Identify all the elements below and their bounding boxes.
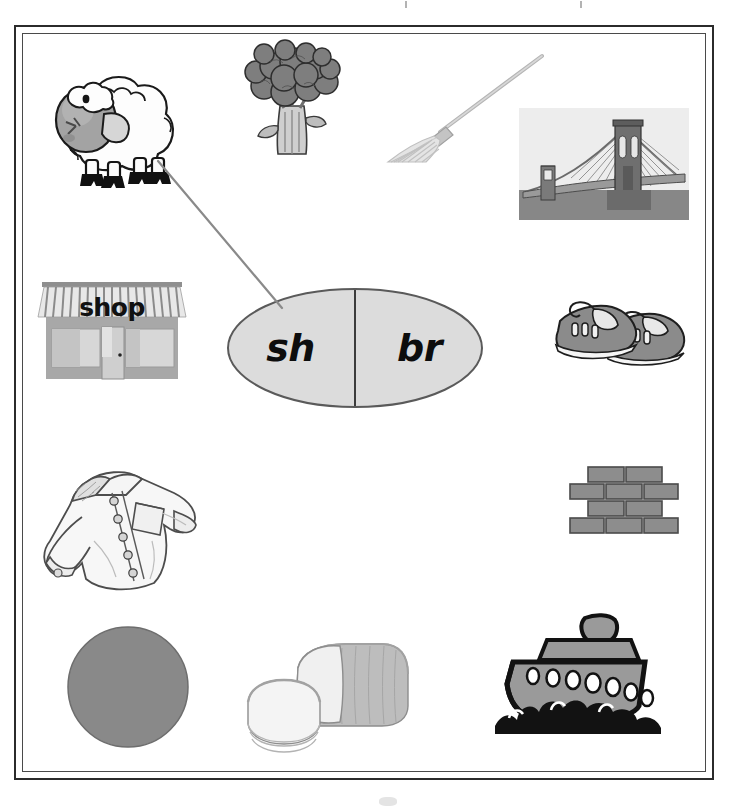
- oval-label-sh: sh: [226, 287, 355, 409]
- picture-bricks[interactable]: [570, 465, 678, 537]
- picture-shop[interactable]: shop: [38, 267, 186, 379]
- picture-shirt[interactable]: [34, 455, 206, 607]
- scan-artifact-bottom: [379, 797, 397, 806]
- picture-broccoli[interactable]: [240, 42, 344, 160]
- picture-bridge[interactable]: [519, 108, 689, 220]
- picture-bread[interactable]: [240, 634, 412, 756]
- worksheet-page: shop: [0, 0, 730, 811]
- shop-sign-text: shop: [38, 293, 186, 322]
- sorting-oval[interactable]: sh br: [226, 287, 484, 409]
- picture-ship[interactable]: [489, 614, 667, 738]
- picture-shoes[interactable]: [548, 281, 696, 389]
- picture-sheep[interactable]: [38, 48, 178, 193]
- oval-label-br: br: [355, 287, 484, 409]
- scan-artifact-top-left: [405, 1, 407, 8]
- picture-ball[interactable]: [66, 625, 191, 750]
- scan-artifact-top-right: [580, 1, 582, 8]
